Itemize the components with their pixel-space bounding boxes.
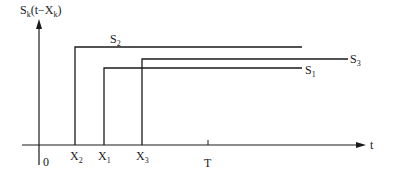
x-axis-arrow-icon — [356, 142, 366, 148]
tick-label-x3: X3 — [136, 149, 149, 165]
tick-label-x1: X1 — [98, 149, 111, 165]
x-axis-label: t — [370, 138, 374, 152]
tick-label-x2: X2 — [70, 149, 83, 165]
curve-s2 — [75, 47, 302, 145]
curve-s1 — [104, 68, 302, 145]
curve-s3 — [142, 59, 348, 145]
curve-label-s2: S2 — [110, 32, 121, 48]
step-function-diagram: Sk(t−Xk) t 0 X2 X1 X3 T S2 S3 S1 — [0, 0, 404, 177]
curve-label-s3: S3 — [350, 52, 361, 68]
origin-label: 0 — [43, 155, 49, 169]
y-axis-arrow-icon — [36, 19, 42, 29]
tick-label-t: T — [204, 156, 212, 170]
y-axis-label: Sk(t−Xk) — [20, 3, 61, 19]
curve-label-s1: S1 — [305, 63, 316, 79]
